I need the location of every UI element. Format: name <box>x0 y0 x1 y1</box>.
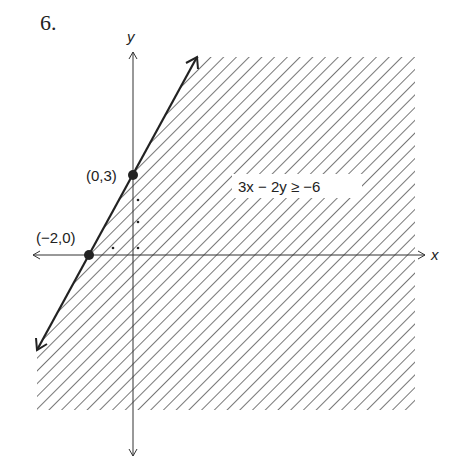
point-neg2-0-label: (−2,0) <box>36 229 76 246</box>
y-axis-label: y <box>126 28 136 45</box>
inequality-label: 3x − 2y ≥ −6 <box>238 178 320 195</box>
x-axis-label: x <box>430 246 439 263</box>
point-0-3-label: (0,3) <box>86 167 117 184</box>
point-0-3 <box>128 170 138 180</box>
point-neg2-0 <box>84 250 94 260</box>
inequality-graph: y x (0,3) (−2,0) 3x − 2y ≥ −6 <box>0 0 466 476</box>
